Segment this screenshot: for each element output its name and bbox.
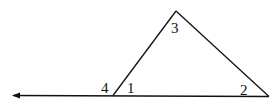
base-line-ray	[14, 96, 269, 97]
left-side	[113, 11, 176, 96]
triangle-diagram: 3 4 1 2	[0, 0, 279, 110]
angle-label-2: 2	[240, 82, 248, 98]
right-side	[176, 11, 269, 97]
angle-label-3: 3	[171, 20, 179, 36]
ray-arrowhead-icon	[12, 93, 20, 99]
angle-label-1: 1	[127, 80, 135, 96]
angle-label-4: 4	[101, 80, 109, 96]
